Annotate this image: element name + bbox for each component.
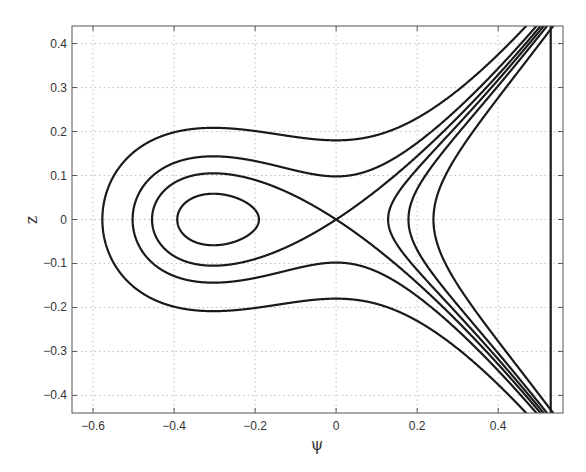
y-tick-label: 0.1 — [50, 169, 67, 183]
y-tick-label: −0.1 — [43, 256, 67, 270]
y-axis-label: z — [22, 216, 41, 224]
background — [0, 0, 586, 472]
y-tick-label: −0.4 — [43, 388, 67, 402]
x-tick-label: −0.2 — [243, 419, 267, 433]
x-axis-label: ψ — [311, 435, 324, 454]
x-tick-label: 0.4 — [490, 419, 507, 433]
y-tick-label: 0.3 — [50, 81, 67, 95]
phase-portrait-chart: −0.6−0.4−0.200.20.4 0.40.30.20.10−0.1−0.… — [0, 0, 586, 472]
x-tick-label: −0.4 — [162, 419, 186, 433]
x-tick-label: −0.6 — [81, 419, 105, 433]
y-tick-label: 0.2 — [50, 125, 67, 139]
x-tick-label: 0.2 — [409, 419, 426, 433]
y-tick-label: 0 — [60, 213, 67, 227]
x-tick-label: 0 — [333, 419, 340, 433]
y-tick-label: 0.4 — [50, 37, 67, 51]
y-tick-label: −0.2 — [43, 300, 67, 314]
y-tick-label: −0.3 — [43, 344, 67, 358]
